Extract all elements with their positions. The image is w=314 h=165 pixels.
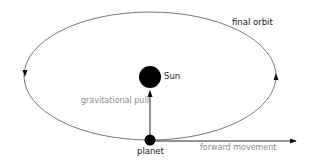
final-orbit-label: final orbit xyxy=(232,17,273,27)
planet-label: planet xyxy=(137,146,164,156)
planet-icon xyxy=(145,135,156,146)
sun-label: Sun xyxy=(164,71,180,81)
gravitational-pull-label: gravitational pull xyxy=(81,96,149,105)
forward-movement-label: forward movement xyxy=(200,143,276,152)
sun-icon xyxy=(139,66,161,88)
orbit-direction-arrow-left xyxy=(23,70,28,77)
orbit-direction-arrow-right xyxy=(274,73,279,80)
orbit-diagram: final orbit Sun gravitational pull plane… xyxy=(0,0,314,165)
